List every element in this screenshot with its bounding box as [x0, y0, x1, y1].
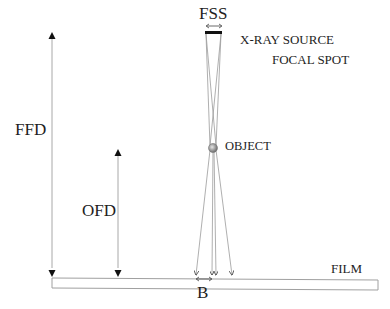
film — [52, 278, 378, 290]
ffd-label: FFD — [15, 120, 46, 140]
x-ray-source-label: X-RAY SOURCE — [240, 32, 334, 48]
focal-spot-bar — [205, 31, 222, 34]
ofd-label: OFD — [82, 201, 116, 221]
fss-label: FSS — [199, 4, 227, 24]
object-label: OBJECT — [225, 139, 271, 154]
ffd-dimension-arrow — [49, 32, 56, 277]
fss-dimension-arrow — [206, 24, 222, 28]
x-ray-beam-lines — [196, 34, 232, 275]
film-label: FILM — [331, 261, 362, 277]
focal-spot-label: FOCAL SPOT — [272, 52, 349, 68]
object-sphere — [209, 144, 218, 153]
blur-label: B — [197, 283, 208, 303]
